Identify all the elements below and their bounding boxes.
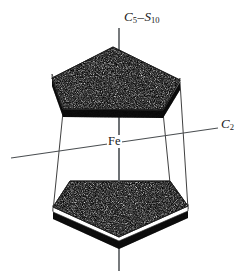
principal-axis-sub-10: 10 — [151, 15, 160, 25]
cyclopentadienyl-ring-top — [52, 47, 180, 118]
metal-center-label: Fe — [107, 135, 122, 148]
principal-axis-label: C5–S10 — [124, 10, 160, 25]
principal-axis-symbol-c: C — [124, 9, 133, 24]
c2-axis-label: C2 — [221, 117, 234, 132]
c2-axis-symbol: C — [221, 116, 230, 131]
cyclopentadienyl-ring-bottom — [53, 181, 188, 249]
c2-axis-sub: 2 — [230, 122, 234, 132]
ferrocene-symmetry-diagram: C5–S10 C2 Fe — [0, 0, 251, 279]
diagram-canvas — [0, 0, 251, 279]
